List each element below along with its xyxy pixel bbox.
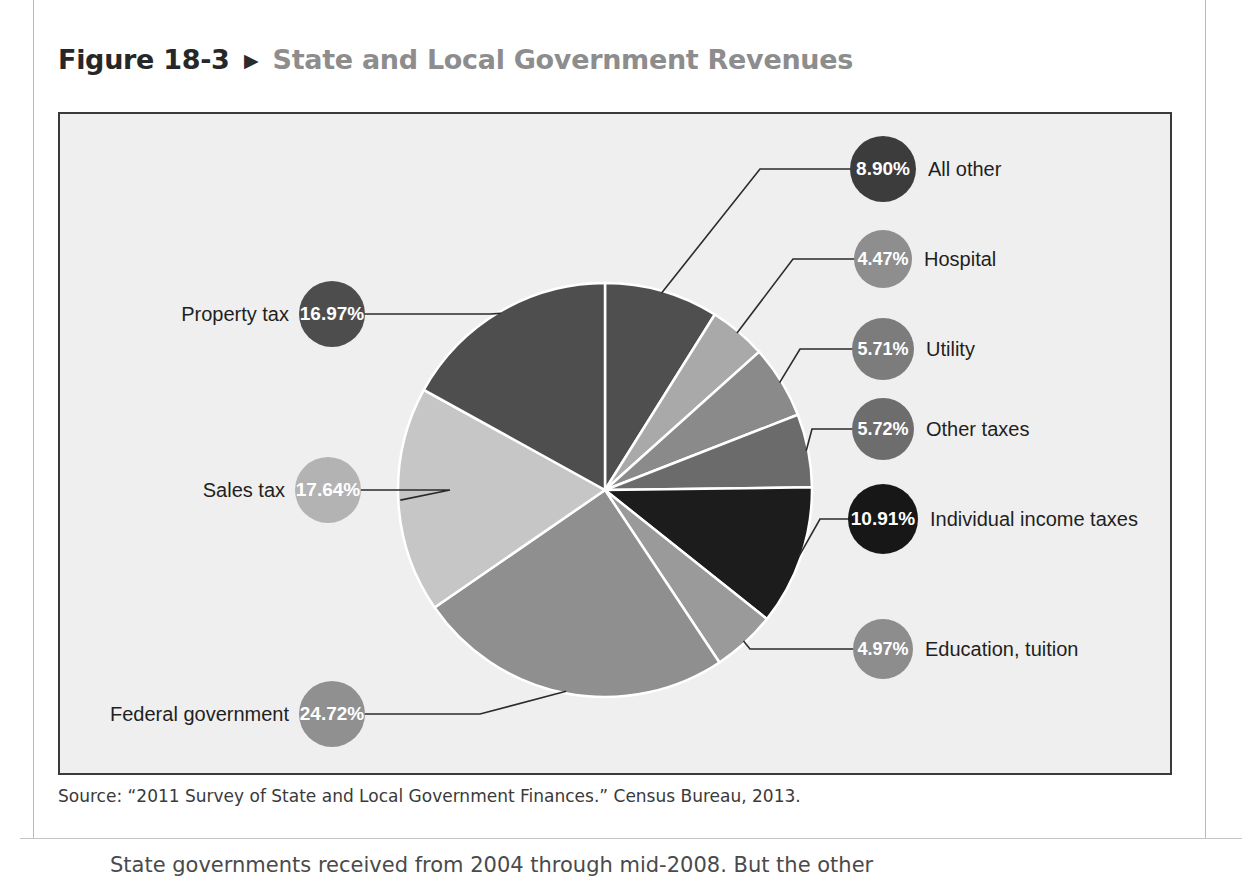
callout[interactable]: 5.72%Other taxes [852,398,1029,460]
callout-percent-bubble[interactable]: 8.90% [850,136,916,202]
callout-label: Federal government [110,703,289,726]
callout-label: Education, tuition [925,638,1078,661]
callout-label: Individual income taxes [930,508,1138,531]
triangle-right-icon: ▶ [244,49,259,72]
callout-percent-bubble[interactable]: 4.97% [853,619,913,679]
callout[interactable]: 5.71%Utility [852,318,975,380]
callout-percent-bubble[interactable]: 10.91% [848,484,918,554]
callout-percent-bubble[interactable]: 5.71% [852,318,914,380]
page-margin-rule-right [1205,0,1206,838]
callout[interactable]: 4.97%Education, tuition [853,619,1078,679]
callout-label: Property tax [181,303,289,326]
callout[interactable]: 4.47%Hospital [854,230,996,288]
page-margin-rule-left [33,0,34,838]
callout-label: Sales tax [203,479,285,502]
callout[interactable]: Federal government24.72% [110,681,365,747]
figure-title: Figure 18-3 ▶ State and Local Government… [58,44,853,75]
callout-label: Utility [926,338,975,361]
callout-percent-bubble[interactable]: 16.97% [299,281,365,347]
callout[interactable]: 8.90%All other [850,136,1001,202]
callout-label: Other taxes [926,418,1029,441]
figure-title-text: State and Local Government Revenues [273,44,853,75]
figure-source: Source: “2011 Survey of State and Local … [58,786,801,806]
chart-container: 8.90%All other4.47%Hospital5.71%Utility5… [58,112,1172,775]
callout-label: All other [928,158,1001,181]
callout[interactable]: Sales tax17.64% [203,457,361,523]
callout[interactable]: 10.91%Individual income taxes [848,484,1138,554]
callout-percent-bubble[interactable]: 17.64% [295,457,361,523]
figure-number: Figure 18-3 [58,44,230,75]
callout-percent-bubble[interactable]: 5.72% [852,398,914,460]
page-body-text: State governments received from 2004 thr… [110,853,1110,878]
callout-percent-bubble[interactable]: 24.72% [299,681,365,747]
callout[interactable]: Property tax16.97% [181,281,365,347]
callout-percent-bubble[interactable]: 4.47% [854,230,912,288]
callout-leader-line [332,691,566,714]
callout-label: Hospital [924,248,996,271]
page-divider-rule [20,838,1242,839]
